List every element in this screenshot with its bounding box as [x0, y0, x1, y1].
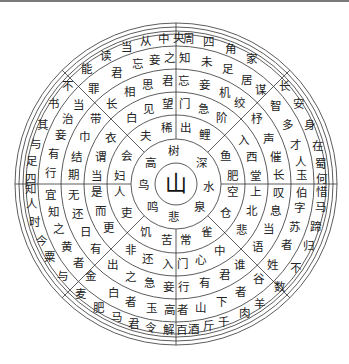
ring-2-char: 会 [120, 149, 134, 163]
ring-3-char: 急 [196, 102, 210, 116]
ring-6-char: 肉 [238, 306, 252, 320]
ring-3-char: 入 [161, 257, 175, 271]
ring-6-char: 与 [56, 269, 70, 283]
ring-3-char: 还 [140, 252, 154, 266]
ring-1-char: 水 [202, 180, 216, 194]
ring-6-char: 足 [25, 154, 39, 168]
ring-3-char: 是 [89, 185, 103, 199]
ring-4-char: 有 [197, 276, 211, 290]
ring-6-char: 羊 [253, 297, 267, 311]
ring-5-char: 人 [293, 155, 307, 169]
ring-6-char: 其 [36, 118, 50, 132]
ring-5-char: 知 [178, 51, 192, 65]
ring-1-char: 树 [166, 144, 180, 158]
ring-5-char: 者 [176, 303, 190, 317]
ring-6-char: 马 [110, 310, 124, 324]
ring-6-char: 角 [224, 42, 238, 56]
ring-2-char: 雀 [199, 225, 213, 239]
ring-3-char: 见 [142, 102, 156, 116]
ring-4-char: 急 [142, 276, 156, 290]
ring-6-char: 斤 [202, 319, 216, 333]
ring-5-char: 宜 [43, 188, 57, 202]
ring-1-char: 鸟 [136, 178, 150, 192]
ring-4-char: 思 [141, 78, 155, 92]
ring-6-char: 与 [29, 137, 43, 151]
ring-3-char: 白 [124, 111, 138, 125]
ring-3-char: 谓 [94, 150, 108, 164]
ring-2-char: 常 [179, 233, 193, 247]
ring-4-char: 有 [89, 242, 103, 256]
ring-5-char: 姓 [266, 258, 280, 272]
ring-5-char: 忘 [130, 57, 144, 71]
ring-2-char: 肥 [225, 169, 239, 183]
ring-4-char: 还 [71, 207, 85, 221]
ring-6-char: 能 [79, 62, 93, 76]
ring-2-char: 鱼 [218, 149, 232, 163]
ring-4-char: 妾 [197, 78, 211, 92]
ring-5-char: 者 [71, 256, 85, 270]
ring-6-char: 令 [144, 321, 158, 335]
ring-5-char: 居 [239, 73, 253, 87]
ring-3-char: 而 [94, 204, 108, 218]
ring-4-char: 妾 [162, 280, 176, 294]
ring-3-char: 衣 [103, 131, 117, 145]
ring-3-char: 阶 [215, 111, 229, 125]
ring-3-char: 心 [194, 253, 208, 267]
ring-5-char: 高 [162, 303, 176, 317]
ring-6-char: 千 [217, 315, 231, 329]
ring-3-char: 当 [89, 169, 103, 183]
ring-6-char: 四 [202, 35, 216, 49]
ring-6-char: 麦 [73, 287, 87, 301]
ring-4-char: 日 [78, 225, 92, 239]
ring-4-char: 相 [122, 85, 136, 99]
ring-6-char: 君 [126, 317, 140, 331]
ring-6-char: 长 [277, 79, 291, 93]
ring-6-char: 当 [119, 40, 133, 54]
ring-4-char: 叹 [272, 186, 286, 200]
ring-6-char: 书 [47, 97, 61, 111]
ring-5-char: 多 [280, 118, 294, 132]
ring-2-char: 空 [225, 185, 239, 199]
ring-5-char: 之 [51, 222, 65, 236]
ring-6-char: 数 [272, 280, 286, 294]
ring-5-char: 玉 [295, 168, 309, 182]
ring-4-char: 期 [66, 168, 80, 182]
ring-2-char: 夫 [139, 129, 153, 143]
ring-5-char: 当 [71, 98, 85, 112]
ring-5-char: 下 [214, 295, 228, 309]
ring-6-char: 百 [174, 323, 188, 337]
ring-5-char: 智 [268, 99, 282, 113]
ring-4-char: 忘 [176, 74, 190, 88]
ring-5-char: 君 [110, 66, 124, 80]
ring-6-char: 酒 [187, 322, 201, 336]
ring-5-char: 谷 [252, 272, 266, 286]
ring-5-char: 苏 [287, 220, 301, 234]
ring-4-char: 无 [67, 188, 81, 202]
ring-1-char: 鸣 [146, 200, 160, 214]
ring-6-char: 解 [161, 323, 175, 337]
ring-5-char: 知 [46, 205, 60, 219]
ring-4-char: 带 [89, 112, 103, 126]
ring-2-char: 人 [113, 185, 127, 199]
ring-5-char: 行 [43, 166, 57, 180]
ring-4-char: 机 [217, 86, 231, 100]
ring-4-char: 催 [268, 150, 282, 164]
ring-3-char: 堂 [249, 169, 263, 183]
ring-2-char: 稀 [159, 121, 173, 135]
ring-2-char: 苦 [159, 233, 173, 247]
ring-3-char: 悲 [235, 223, 249, 237]
ring-5-char: 未 [199, 55, 213, 69]
ring-5-char: 者 [279, 238, 293, 252]
ring-6-char: 在 [310, 139, 324, 153]
ring-5-char: 者 [234, 285, 248, 299]
ring-3-char: 更 [102, 221, 116, 235]
ring-5-char: 有 [47, 147, 61, 161]
ring-6-char: 今 [35, 234, 49, 248]
ring-6-char: 时 [28, 215, 42, 229]
ring-3-char: 西 [244, 150, 258, 164]
ring-3-char: 上 [249, 185, 263, 199]
ring-4-char: 君 [160, 74, 174, 88]
ring-6-char: 肥 [92, 301, 106, 315]
ring-1-char: 深 [194, 156, 208, 170]
ring-2-char: 鲤 [198, 128, 212, 142]
